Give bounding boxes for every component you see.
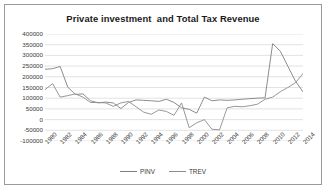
y-axis-tick-label: 400000 [5, 31, 43, 37]
y-axis-tick-label: -100000 [5, 138, 43, 144]
chart-title: Private investment and Total Tax Revenue [5, 13, 321, 24]
legend-label: PINV [140, 169, 155, 175]
legend-item-pinv[interactable]: PINV [120, 169, 155, 175]
plot-area [45, 34, 303, 141]
plot-svg [45, 34, 303, 141]
chart-container: Private investment and Total Tax Revenue… [4, 4, 322, 185]
y-axis-tick-label: -50000 [5, 127, 43, 133]
y-axis-tick-label: 0 [5, 116, 43, 122]
y-axis-tick-label: 150000 [5, 84, 43, 90]
legend-item-trev[interactable]: TREV [169, 169, 206, 175]
series-line-pinv [45, 44, 303, 114]
series-line-trev [45, 74, 303, 130]
y-axis-tick-label: 100000 [5, 95, 43, 101]
y-axis-tick-label: 200000 [5, 74, 43, 80]
legend-line-icon [120, 171, 137, 172]
chart-legend: PINVTREV [5, 169, 321, 175]
y-axis-tick-label: 50000 [5, 106, 43, 112]
y-axis-labels: 4000003500003000002500002000001500001000… [5, 34, 43, 141]
x-axis-labels: 1980198219841986198819901992199419961998… [45, 141, 303, 171]
y-axis-tick-label: 300000 [5, 52, 43, 58]
y-axis-tick-label: 250000 [5, 63, 43, 69]
y-axis-tick-label: 350000 [5, 42, 43, 48]
x-axis-tick-label: 2014 [302, 131, 316, 145]
legend-label: TREV [189, 169, 206, 175]
legend-line-icon [169, 171, 186, 172]
